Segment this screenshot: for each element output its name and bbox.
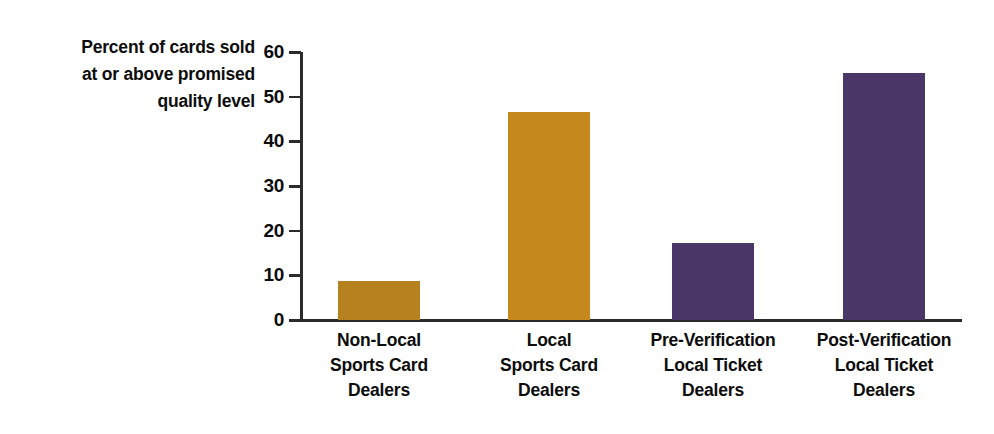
x-axis-category-label-line: Post-Verification — [784, 328, 984, 353]
bar — [338, 281, 420, 320]
x-axis-category-label-line: Pre-Verification — [613, 328, 813, 353]
x-axis-category-label: Pre-VerificationLocal TicketDealers — [613, 328, 813, 403]
x-axis-category-label-line: Dealers — [613, 378, 813, 403]
x-axis-category-label-line: Dealers — [784, 378, 984, 403]
plot-area: 0102030405060 Non-LocalSports CardDealer… — [0, 0, 994, 434]
x-axis-category-label-line: Local Ticket — [784, 353, 984, 378]
x-axis-category-label-line: Local Ticket — [613, 353, 813, 378]
bar — [508, 112, 590, 320]
bar — [843, 73, 925, 320]
bar — [672, 243, 754, 320]
bar-chart: Percent of cards sold at or above promis… — [0, 0, 994, 434]
x-axis-category-label: Post-VerificationLocal TicketDealers — [784, 328, 984, 403]
bars-layer — [0, 0, 994, 320]
